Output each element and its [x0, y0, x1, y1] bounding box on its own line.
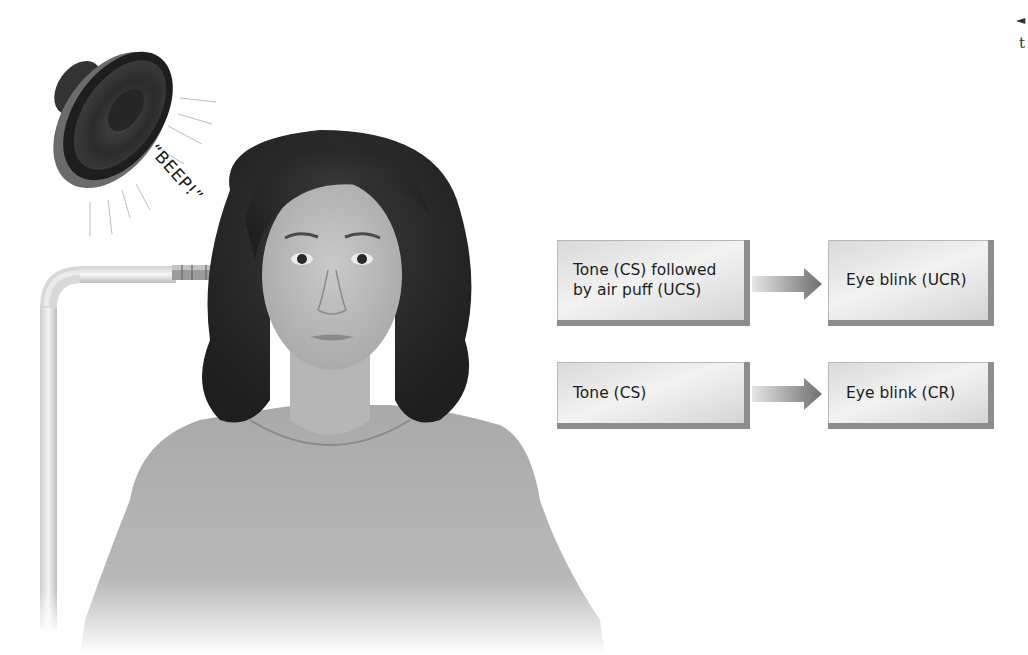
right-arrow-icon — [752, 268, 824, 300]
response-label: Eye blink (UCR) — [846, 270, 967, 290]
response-label: Eye blink (CR) — [846, 383, 955, 403]
shirt — [80, 405, 605, 655]
response-box-cr: Eye blink (CR) — [828, 362, 994, 429]
right-arrow-icon — [752, 378, 824, 410]
response-box-ucr: Eye blink (UCR) — [828, 240, 994, 326]
stimulus-box-test: Tone (CS) — [557, 362, 750, 429]
stimulus-label: Tone (CS) — [573, 383, 646, 403]
left-triangle-icon[interactable]: ◄ — [1016, 13, 1025, 27]
stimulus-label: Tone (CS) followed by air puff (UCS) — [573, 260, 716, 300]
cropped-text-fragment: t — [1019, 34, 1025, 52]
stimulus-box-conditioning: Tone (CS) followed by air puff (UCS) — [557, 240, 750, 326]
